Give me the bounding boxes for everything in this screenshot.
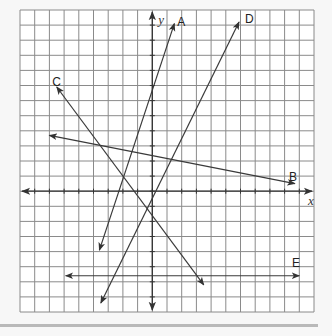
coordinate-plane: xy ADCBE	[0, 0, 332, 336]
line-label-e: E	[292, 256, 300, 270]
line-label-d: D	[245, 12, 254, 26]
line-label-b: B	[289, 170, 297, 184]
bottom-divider	[0, 324, 318, 327]
line-label-c: C	[52, 75, 61, 89]
grid-lines	[20, 10, 314, 312]
x-axis-label: x	[307, 193, 314, 208]
line-label-a: A	[177, 15, 185, 29]
y-axis-label: y	[156, 12, 164, 27]
